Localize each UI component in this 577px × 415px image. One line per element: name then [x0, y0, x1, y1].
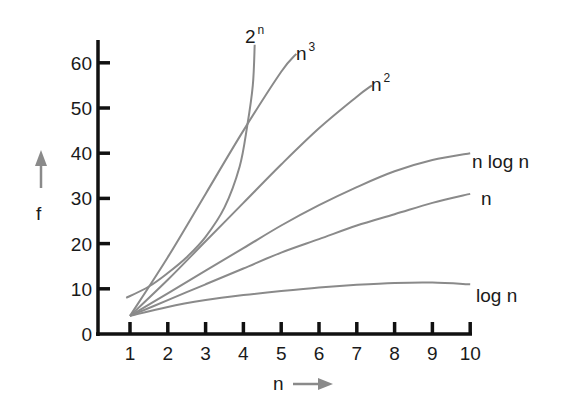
curve-n [130, 194, 470, 316]
x-axis-title-group: n [273, 373, 333, 394]
x-tick-label: 3 [200, 343, 211, 364]
curve-label-n-log-n: n log n [472, 151, 529, 172]
x-tick-label: 7 [352, 343, 363, 364]
x-tick-label: 8 [389, 343, 400, 364]
curve-label-n: n [481, 188, 492, 209]
x-tick-label: 1 [125, 343, 136, 364]
curve-label-n-3: n3 [296, 40, 316, 64]
y-tick-label: 0 [81, 324, 92, 345]
y-tick-label: 20 [71, 234, 92, 255]
up-arrow-head-icon [35, 150, 47, 166]
complexity-chart: 0102030405060 12345678910 log nnn log nn… [0, 0, 577, 415]
curves-group [126, 45, 470, 316]
x-tick-label: 9 [427, 343, 438, 364]
curve-labels-group: log nnn log nn2n32n [245, 23, 529, 306]
x-tick-label: 10 [460, 343, 481, 364]
y-axis-title: f [36, 203, 42, 224]
curve-label-log-n: log n [476, 285, 517, 306]
x-tick-label: 6 [314, 343, 325, 364]
y-axis-title-group: f [35, 150, 47, 224]
x-ticks-group: 12345678910 [125, 322, 481, 364]
y-ticks-group: 0102030405060 [71, 53, 110, 345]
curve-label-2-n: 2n [245, 23, 264, 47]
curve-2-n [126, 45, 255, 298]
curve-log-n [130, 282, 470, 316]
right-arrow-head-icon [318, 378, 333, 390]
x-tick-label: 5 [276, 343, 287, 364]
y-tick-label: 30 [71, 188, 92, 209]
x-tick-label: 4 [238, 343, 249, 364]
curve-n-3 [130, 54, 296, 316]
x-axis-title: n [273, 373, 284, 394]
y-tick-label: 40 [71, 143, 92, 164]
y-tick-label: 60 [71, 53, 92, 74]
y-tick-label: 50 [71, 98, 92, 119]
x-tick-label: 2 [163, 343, 174, 364]
y-tick-label: 10 [71, 279, 92, 300]
curve-label-n-2: n2 [371, 71, 391, 95]
